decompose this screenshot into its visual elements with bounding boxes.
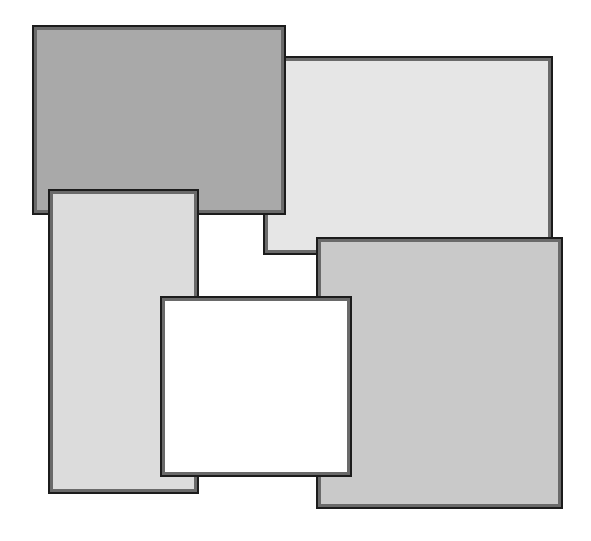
rect-top-left bbox=[32, 25, 286, 215]
diagram-canvas bbox=[0, 0, 591, 541]
rect-top-right bbox=[263, 56, 553, 255]
rect-bottom-right bbox=[316, 237, 563, 509]
rect-center-white bbox=[160, 296, 352, 477]
